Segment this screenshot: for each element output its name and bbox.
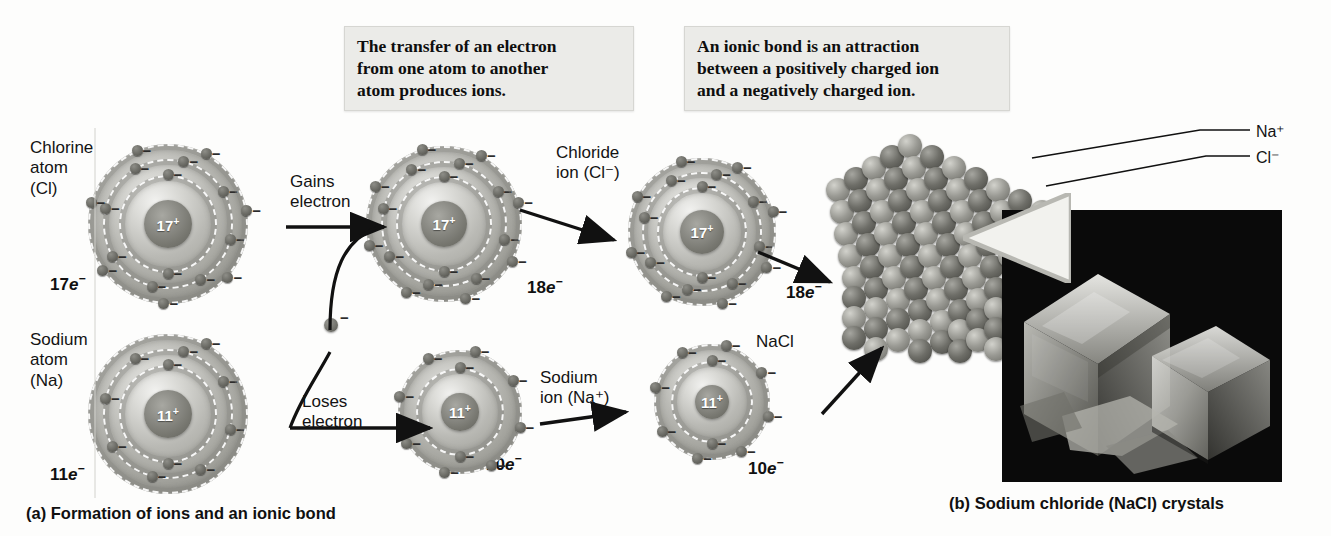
arrows-layer [0, 0, 1331, 536]
figure-root: The transfer of an electron from one ato… [0, 0, 1331, 536]
